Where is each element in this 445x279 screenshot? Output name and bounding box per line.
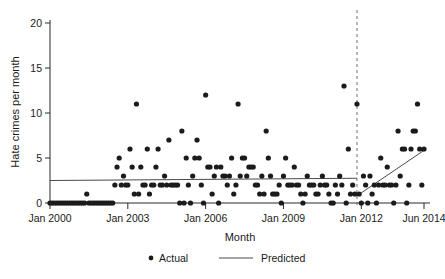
data-point [188,200,193,205]
data-point [125,182,130,187]
data-point [354,101,359,106]
data-point [251,164,256,169]
data-point [305,173,310,178]
data-point [359,200,364,205]
data-point [259,173,264,178]
y-tick-label: 5 [36,152,42,164]
figure-background [0,0,445,279]
data-point [233,182,238,187]
data-point [201,200,206,205]
data-point [210,191,215,196]
data-point [303,191,308,196]
legend-marker-actual [149,256,154,261]
data-point [320,173,325,178]
data-point [335,191,340,196]
data-point [186,182,191,187]
data-point [344,200,349,205]
data-point [238,173,243,178]
data-point [415,101,420,106]
data-point [127,146,132,151]
x-tick-label: Jun 2014 [402,212,445,224]
data-point [207,164,212,169]
data-point [315,191,320,196]
data-point [363,182,368,187]
data-point [261,191,266,196]
data-point [110,200,115,205]
data-point [361,173,366,178]
data-point [143,182,148,187]
y-tick-label: 10 [30,107,42,119]
data-point [147,191,152,196]
data-point [194,137,199,142]
data-point [279,200,284,205]
data-point [151,182,156,187]
data-point [324,182,329,187]
data-point [378,155,383,160]
x-axis-title: Month [225,231,256,243]
data-point [175,182,180,187]
data-point [136,191,141,196]
data-point [121,173,126,178]
data-point [153,164,158,169]
data-point [402,146,407,151]
data-point [216,200,221,205]
data-point [393,182,398,187]
data-point [138,164,143,169]
data-point [374,200,379,205]
data-point [326,191,331,196]
data-point [391,200,396,205]
data-point [130,164,135,169]
x-tick-label: Jan 2000 [28,212,71,224]
data-point [199,182,204,187]
data-point [235,101,240,106]
data-point [357,191,362,196]
data-point [413,128,418,133]
data-point [398,173,403,178]
data-point [114,164,119,169]
data-point [268,173,273,178]
data-point [331,200,336,205]
data-point [179,128,184,133]
data-point [266,155,271,160]
data-point [404,200,409,205]
data-point [264,128,269,133]
data-point [346,146,351,151]
data-point [227,173,232,178]
legend-label-predicted: Predicted [261,252,306,264]
data-point [406,182,411,187]
data-point [242,155,247,160]
data-point [365,200,370,205]
x-tick-label: Jan 2009 [262,212,305,224]
data-point [341,83,346,88]
data-point [155,146,160,151]
data-point [337,173,342,178]
data-point [255,182,260,187]
data-point [283,155,288,160]
data-point [350,182,355,187]
data-point [367,173,372,178]
data-point [231,191,236,196]
y-tick-label: 15 [30,62,42,74]
data-point [190,173,195,178]
data-point [112,182,117,187]
legend-label-actual: Actual [159,252,188,264]
data-point [311,182,316,187]
data-point [419,182,424,187]
x-tick-label: Jan 2012 [340,212,383,224]
data-point [300,200,305,205]
data-point [229,155,234,160]
data-point [225,182,230,187]
data-point [281,173,286,178]
data-point [197,155,202,160]
data-point [339,182,344,187]
data-point [395,128,400,133]
data-point [296,182,301,187]
data-point [203,92,208,97]
data-point [244,173,249,178]
data-point [421,146,426,151]
y-axis-title: Hate crimes per month [9,56,21,167]
data-point [166,137,171,142]
data-point [292,164,297,169]
data-point [218,164,223,169]
data-point [212,173,217,178]
